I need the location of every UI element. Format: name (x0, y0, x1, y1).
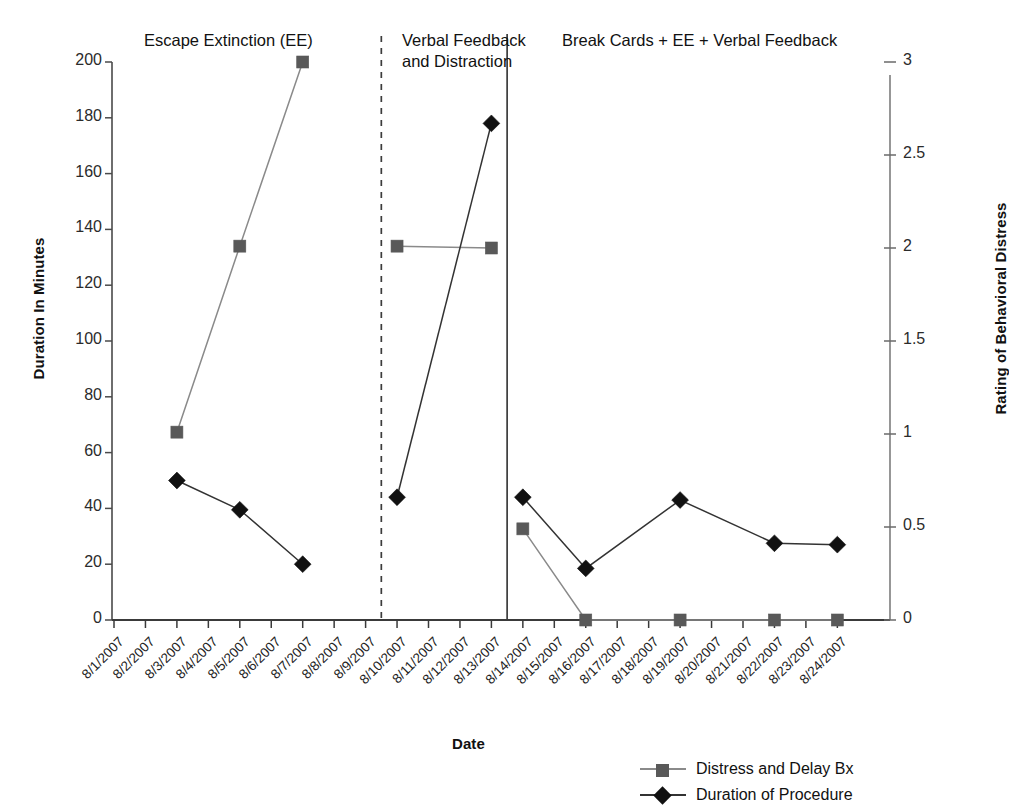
y-axis-left-tick-label: 0 (40, 609, 102, 627)
y-axis-left-tick-label: 180 (40, 107, 102, 125)
data-point-marker-diamond (169, 472, 186, 489)
data-point-marker-square (831, 614, 843, 626)
phase-label: Break Cards + EE + Verbal Feedback (562, 30, 892, 51)
data-point-marker-square (391, 240, 403, 252)
legend-item-label: Distress and Delay Bx (696, 760, 853, 778)
data-point-marker-square (768, 614, 780, 626)
data-point-marker-diamond (829, 536, 846, 553)
y-axis-left-tick-label: 160 (40, 163, 102, 181)
y-axis-left-tick-label: 60 (40, 442, 102, 460)
series-line-segment (523, 529, 838, 620)
phase-label: Escape Extinction (EE) (144, 30, 394, 51)
data-point-marker-square (234, 240, 246, 252)
chart-legend: Distress and Delay BxDuration of Procedu… (640, 756, 853, 808)
y-axis-left-title: Duration In Minutes (30, 209, 47, 409)
data-point-marker-diamond (672, 492, 689, 509)
y-axis-left-tick-label: 200 (40, 51, 102, 69)
y-axis-left-tick-label: 100 (40, 330, 102, 348)
legend-item[interactable]: Distress and Delay Bx (640, 756, 853, 782)
data-point-marker-square (171, 426, 183, 438)
data-point-marker-square (485, 242, 497, 254)
y-axis-right-title: Rating of Behavioral Distress (992, 189, 1009, 429)
data-point-marker-diamond (766, 535, 783, 552)
data-point-marker-diamond (483, 115, 500, 132)
series-line-segment (397, 123, 491, 497)
y-axis-left-tick-label: 140 (40, 218, 102, 236)
data-point-marker-square (517, 523, 529, 535)
y-axis-left-tick-label: 40 (40, 497, 102, 515)
legend-swatch-diamond-icon (640, 787, 686, 803)
y-axis-right-tick-label: 3 (903, 51, 912, 69)
y-axis-right-tick-label: 0.5 (903, 516, 925, 534)
y-axis-left-tick-label: 120 (40, 274, 102, 292)
y-axis-right-tick-label: 1 (903, 423, 912, 441)
legend-item-label: Duration of Procedure (696, 786, 853, 804)
y-axis-right-tick-label: 0 (903, 609, 912, 627)
x-axis-title: Date (452, 735, 485, 752)
data-point-marker-diamond (389, 489, 406, 506)
y-axis-right-tick-label: 1.5 (903, 330, 925, 348)
y-axis-left-tick-label: 20 (40, 553, 102, 571)
legend-swatch-square-icon (640, 761, 686, 777)
data-point-marker-square (297, 56, 309, 68)
y-axis-left-tick-label: 80 (40, 386, 102, 404)
series-line-segment (397, 246, 491, 248)
y-axis-right-tick-label: 2 (903, 237, 912, 255)
phase-label: Verbal Feedback and Distraction (402, 30, 534, 72)
data-point-marker-square (674, 614, 686, 626)
data-point-marker-square (580, 614, 592, 626)
series-line-segment (177, 481, 303, 565)
y-axis-right-tick-label: 2.5 (903, 144, 925, 162)
legend-item[interactable]: Duration of Procedure (640, 782, 853, 808)
